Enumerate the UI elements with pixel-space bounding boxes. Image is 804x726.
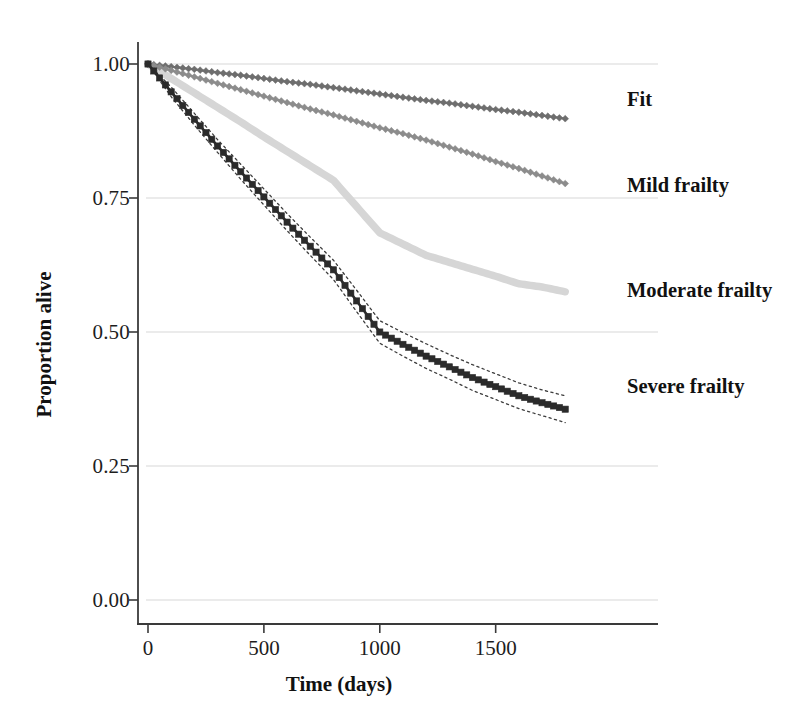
censor-marker <box>238 169 244 175</box>
censor-marker <box>353 118 360 125</box>
censor-marker <box>266 76 273 83</box>
censor-marker <box>255 188 261 194</box>
censor-marker <box>336 85 343 92</box>
censor-marker <box>313 249 319 255</box>
y-tick-label-text: 1.00 <box>92 52 130 77</box>
censor-marker <box>342 86 349 93</box>
x-axis-title: Time (days) <box>148 672 530 697</box>
censor-marker <box>458 147 465 154</box>
censor-marker <box>498 107 505 114</box>
censor-marker <box>486 156 493 163</box>
censor-marker <box>481 105 488 112</box>
censor-marker <box>411 347 417 353</box>
censor-marker <box>544 113 551 120</box>
censor-marker <box>354 298 360 304</box>
censor-marker <box>243 73 250 80</box>
censor-marker <box>278 98 285 105</box>
censor-marker <box>515 165 522 172</box>
censor-marker <box>527 110 534 117</box>
censor-marker <box>435 358 441 364</box>
censor-marker <box>498 160 505 167</box>
censor-marker <box>481 154 488 161</box>
censor-marker <box>359 306 365 312</box>
censor-marker <box>151 68 157 74</box>
x-tick-label-text: 500 <box>204 636 324 661</box>
censor-marker <box>318 109 325 116</box>
censor-marker <box>382 332 388 338</box>
censor-marker <box>469 103 476 110</box>
y-axis-title: Proportion alive <box>32 215 57 475</box>
censor-marker <box>237 86 244 93</box>
censor-marker <box>214 80 221 87</box>
censor-marker <box>191 66 198 73</box>
censor-marker <box>208 78 215 85</box>
censor-marker <box>406 344 412 350</box>
censor-marker <box>168 89 174 95</box>
censor-marker <box>382 126 389 133</box>
censor-marker <box>284 219 290 225</box>
censor-marker <box>521 110 528 117</box>
censor-marker <box>278 213 284 219</box>
censor-marker <box>371 321 377 327</box>
censor-marker <box>458 101 465 108</box>
censor-marker <box>440 99 447 106</box>
censor-marker <box>260 75 267 82</box>
censor-marker <box>272 206 278 212</box>
censor-marker <box>330 84 337 91</box>
censor-marker <box>319 255 325 261</box>
censor-marker <box>481 379 487 385</box>
censor-marker <box>463 149 470 156</box>
censor-marker <box>411 95 418 102</box>
censor-marker <box>347 116 354 123</box>
censor-marker <box>521 167 528 174</box>
censor-marker <box>295 80 302 87</box>
censor-marker <box>510 163 517 170</box>
censor-marker <box>278 77 285 84</box>
censor-marker <box>203 77 210 84</box>
censor-marker <box>556 178 563 185</box>
censor-marker <box>359 88 366 95</box>
censor-marker <box>463 102 470 109</box>
censor-marker <box>446 100 453 107</box>
censor-marker <box>429 98 436 105</box>
censor-marker <box>423 137 430 144</box>
censor-marker <box>429 138 436 145</box>
censor-marker <box>469 374 475 380</box>
censor-marker <box>434 140 441 147</box>
series-label-moderate-frailty: Moderate frailty <box>627 279 772 302</box>
survival-chart-figure: 0.000.250.500.751.00 050010001500 FitMil… <box>0 0 804 726</box>
censor-marker <box>353 87 360 94</box>
censor-marker <box>417 135 424 142</box>
censor-marker <box>284 99 291 106</box>
censor-marker <box>318 83 325 90</box>
censor-marker <box>145 61 151 67</box>
censor-marker <box>348 290 354 296</box>
censor-marker <box>376 91 383 98</box>
censor-marker <box>492 106 499 113</box>
censor-marker <box>313 82 320 89</box>
censor-marker <box>405 95 412 102</box>
censor-marker <box>388 92 395 99</box>
censor-marker <box>516 393 522 399</box>
plot-canvas <box>0 0 804 726</box>
censor-marker <box>289 101 296 108</box>
censor-marker <box>208 68 215 75</box>
censor-marker <box>440 361 446 367</box>
censor-marker <box>289 79 296 86</box>
censor-marker <box>492 158 499 165</box>
censor-marker <box>330 267 336 273</box>
censor-marker <box>174 96 180 102</box>
censor-marker <box>261 194 267 200</box>
censor-marker <box>376 124 383 131</box>
censor-marker <box>284 78 291 85</box>
censor-marker <box>556 114 563 121</box>
censor-marker <box>249 90 256 97</box>
censor-marker <box>185 65 192 72</box>
censor-marker <box>162 82 168 88</box>
censor-marker <box>209 136 215 142</box>
censor-marker <box>533 111 540 118</box>
censor-marker <box>290 225 296 231</box>
censor-marker <box>197 123 203 129</box>
confidence-band-upper-severe-frailty <box>148 64 565 396</box>
censor-marker <box>342 115 349 122</box>
